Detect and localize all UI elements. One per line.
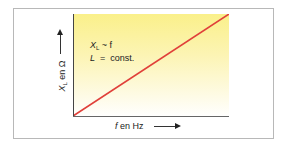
legend-text: = const. — [95, 53, 134, 63]
legend-line-1: XL ~ f — [90, 40, 134, 53]
x-unit: en Hz — [118, 121, 144, 131]
reactance-line — [73, 14, 229, 117]
x-axis — [73, 116, 229, 117]
y-sub: L — [62, 82, 68, 85]
legend-text: ~ f — [99, 40, 112, 50]
y-var: X — [57, 86, 67, 92]
y-axis-label: XL en Ω — [57, 46, 69, 106]
y-axis — [73, 14, 74, 117]
y-unit: en Ω — [57, 60, 67, 82]
x-axis-label: f en Hz — [115, 121, 144, 131]
x-arrow-icon — [154, 126, 176, 127]
legend-line-2: L = const. — [90, 53, 134, 63]
legend: XL ~ f L = const. — [90, 40, 134, 63]
